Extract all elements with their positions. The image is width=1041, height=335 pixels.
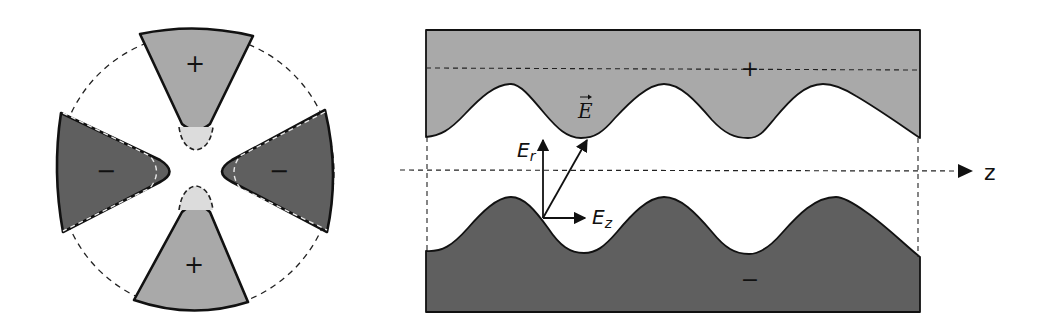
sign-bottom: +	[184, 251, 204, 279]
field-vector-symbol: E	[577, 99, 593, 123]
z-axis-line	[400, 170, 960, 171]
lower-electrode	[426, 197, 920, 312]
axial-component-symbol: E	[592, 205, 605, 229]
lower-sign: −	[741, 267, 759, 292]
quadrupole-cross-section: + + − −	[57, 28, 334, 310]
upper-sign: +	[741, 56, 759, 81]
sign-left: −	[96, 157, 116, 185]
diagram-canvas: + + − − z + − E	[0, 0, 1041, 335]
field-vector-arrow	[543, 140, 587, 218]
sign-right: −	[269, 157, 289, 185]
z-axis-arrowhead-icon	[958, 164, 973, 178]
radial-component-label: Er	[517, 138, 537, 164]
axial-component-label: Ez	[592, 205, 613, 231]
electrode-top-positive	[140, 28, 253, 150]
z-axis-label: z	[984, 160, 996, 185]
radial-component-subscript: r	[530, 148, 537, 164]
electrode-bottom-positive	[134, 186, 248, 311]
field-vectors	[543, 140, 587, 218]
axial-component-subscript: z	[604, 215, 613, 231]
field-vector-label: E	[577, 95, 593, 124]
upper-electrode	[426, 30, 920, 138]
axial-section: z + − E Er Ez	[400, 30, 996, 312]
radial-component-symbol: E	[517, 138, 530, 162]
sign-top: +	[185, 50, 205, 78]
